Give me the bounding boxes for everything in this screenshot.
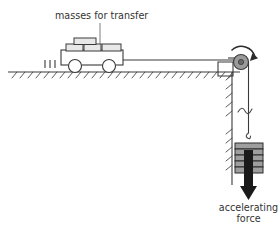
table-edge-hatching: [226, 75, 232, 170]
weight-hook: [246, 133, 250, 139]
label-accelerating-force-line2: force: [236, 213, 260, 224]
transfer-block-1: [66, 44, 83, 51]
table-surface-hatching: [12, 72, 233, 78]
transfer-block-top: [74, 38, 96, 45]
trolley: [61, 38, 123, 73]
physics-diagram: masses for transfer: [0, 0, 278, 227]
pulley-hub: [238, 59, 243, 64]
label-accelerating-force-line1: accelerating: [219, 202, 278, 213]
transfer-block-3: [102, 44, 121, 51]
motion-lines: [45, 60, 55, 68]
trolley-wheel-rear: [69, 60, 82, 73]
force-arrow-head: [240, 186, 257, 200]
diagram-canvas: masses for transfer: [0, 0, 278, 227]
trolley-wheel-front: [103, 60, 116, 73]
table-surface: [8, 72, 240, 78]
string-break-symbol: [238, 108, 252, 113]
label-masses-for-transfer: masses for transfer: [55, 10, 148, 21]
string-vertical: [238, 62, 252, 139]
pulley: [234, 55, 249, 70]
weight-slice-1: [235, 143, 263, 149]
table-edge: [226, 72, 232, 185]
force-arrow-shaft: [244, 150, 253, 190]
transfer-block-2: [84, 44, 101, 51]
